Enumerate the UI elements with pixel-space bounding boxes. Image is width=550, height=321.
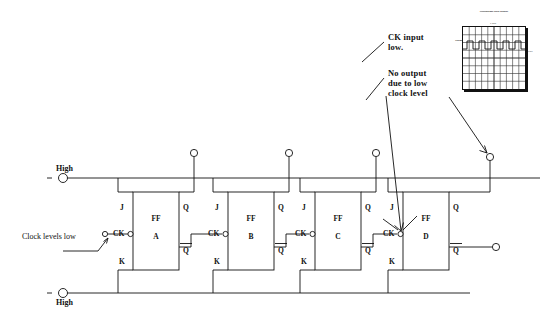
circuit-diagram-canvas: High High Clock levels low CK input low.… — [0, 0, 550, 321]
top-rail-terminal — [59, 174, 68, 183]
scope-gridlines — [463, 27, 525, 89]
scope-subtitle: x axis — [462, 22, 524, 25]
scope-right-label: 1 V/div — [525, 50, 533, 53]
top-rail-label: High — [56, 164, 73, 173]
ff-c-pin-qbar: Q — [365, 246, 371, 255]
ff-a-pin-ck: CK — [113, 229, 124, 238]
ff-d-box — [403, 192, 449, 270]
ff-a-pin-qbar: Q — [183, 246, 189, 255]
qbar-d-terminal — [492, 243, 499, 250]
ff-a-pin-j: J — [120, 203, 124, 212]
q-b-terminal — [285, 149, 292, 156]
bottom-rail-terminal — [59, 289, 68, 298]
ff-c-name: FF — [315, 214, 361, 223]
ck-input-low-leader-left — [362, 42, 384, 62]
no-output-leader-left — [366, 78, 384, 100]
ff-c-pin-q: Q — [365, 203, 371, 212]
ff-a-id: A — [133, 232, 179, 241]
ff-c-id: C — [315, 232, 361, 241]
ff-a-name: FF — [133, 214, 179, 223]
q-c-terminal — [372, 149, 379, 156]
ff-b-pin-qbar: Q — [278, 246, 284, 255]
ff-d-pin-ck: CK — [383, 229, 394, 238]
bottom-rail-label: High — [56, 298, 73, 307]
annotation-no-output: No output due to low clock level — [388, 68, 428, 98]
ff-c-pin-k: K — [301, 257, 307, 266]
ff-c-pin-j: J — [302, 203, 306, 212]
scope-grid — [462, 26, 526, 90]
oscilloscope-display: Oscilloscope Data Display x axis Voltage… — [455, 10, 533, 102]
q-a-terminal — [190, 149, 197, 156]
ff-b-box — [228, 192, 274, 270]
ff-a-pin-q: Q — [183, 203, 189, 212]
ff-c-box — [315, 192, 361, 270]
ff-d-pin-q: Q — [453, 203, 459, 212]
scope-x-label: Time (ms) — [462, 89, 524, 92]
annotation-ck-input-low: CK input low. — [388, 32, 424, 52]
ff-b-pin-q: Q — [278, 203, 284, 212]
ff-c-pin-ck: CK — [295, 229, 306, 238]
ff-b-id: B — [228, 232, 274, 241]
ff-b-pin-ck: CK — [208, 229, 219, 238]
ff-d-pin-qbar: Q — [453, 246, 459, 255]
ck-a-source-terminal — [102, 231, 107, 236]
ff-b-pin-j: J — [215, 203, 219, 212]
clock-levels-low-note: Clock levels low — [22, 232, 76, 241]
ff-b-name: FF — [228, 214, 274, 223]
scope-trace-svg — [463, 27, 525, 89]
ff-a-pin-k: K — [119, 257, 125, 266]
ff-b-pin-k: K — [214, 257, 220, 266]
clock-note-leader — [98, 238, 108, 251]
scope-y-label: Voltage — [455, 40, 461, 43]
ck-input-low-leader — [449, 97, 487, 153]
ff-d-pin-k: K — [389, 257, 395, 266]
ff-d-pin-j: J — [390, 203, 394, 212]
ff-d-name: FF — [403, 214, 449, 223]
ff-d-id: D — [403, 232, 449, 241]
scope-title: Oscilloscope Data Display — [455, 10, 533, 13]
q-d-terminal — [486, 153, 493, 160]
no-output-arrowhead — [395, 223, 404, 232]
ff-a-box — [133, 192, 179, 270]
